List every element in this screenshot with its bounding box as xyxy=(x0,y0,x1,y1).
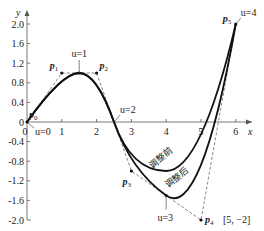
p4-coordinate-note: [5, −2] xyxy=(223,214,250,225)
x-tick-label: 1 xyxy=(59,126,64,137)
bspline-chart: xy2.01.61.20.80.40-0.4-0.8-1.2-1.6-2.001… xyxy=(0,0,264,231)
y-tick-label: -1.2 xyxy=(8,175,24,186)
u4-leader xyxy=(236,18,241,24)
annotation-before: 调整前 xyxy=(147,145,175,170)
y-axis-label: y xyxy=(15,7,21,18)
p5-label: p5 xyxy=(222,13,232,26)
y-tick-label: 1.6 xyxy=(12,38,25,49)
knot-label-u3: u=3 xyxy=(157,212,173,223)
y-tick-label: 0.8 xyxy=(12,77,25,88)
x-tick-label: 2 xyxy=(94,126,99,137)
y-tick-label: 1.2 xyxy=(12,58,25,69)
control-point-p4 xyxy=(199,218,202,221)
p3-label: p3 xyxy=(121,176,131,189)
y-tick-label: 0.4 xyxy=(12,97,25,108)
y-tick-label: 2.0 xyxy=(12,19,25,30)
x-tick-label: 4 xyxy=(164,126,169,137)
u0-leader xyxy=(28,123,34,128)
curve-before xyxy=(27,24,236,171)
p4-label: p4 xyxy=(204,214,214,227)
control-point-p3 xyxy=(130,169,133,172)
y-tick-label: -0.8 xyxy=(8,156,24,167)
knot-label-u1: u=1 xyxy=(71,48,87,59)
knot-label-u4: u=4 xyxy=(241,7,257,18)
u2-leader xyxy=(114,115,120,122)
control-point-p2 xyxy=(95,71,98,74)
x-axis-label: x xyxy=(247,126,253,137)
x-tick-label: 3 xyxy=(129,126,134,137)
y-axis-arrow xyxy=(25,10,30,16)
y-tick-label: -0.4 xyxy=(8,136,24,147)
y-tick-label: -2.0 xyxy=(8,215,24,226)
x-tick-label: 6 xyxy=(233,126,238,137)
knot-label-u0: u=0 xyxy=(35,126,51,137)
p1-label: p1 xyxy=(49,60,59,73)
labels: p0p1p2p3p4p5[5, −2]u=0u=1u=2u=3u=4调整前调整后 xyxy=(28,7,256,227)
x-axis-arrow xyxy=(246,120,252,125)
knot-label-u2: u=2 xyxy=(120,104,136,115)
x-tick-label: 0 xyxy=(23,126,28,137)
y-tick-label: -1.6 xyxy=(8,195,24,206)
p2-label: p2 xyxy=(99,60,109,73)
control-point-p1 xyxy=(60,71,63,74)
